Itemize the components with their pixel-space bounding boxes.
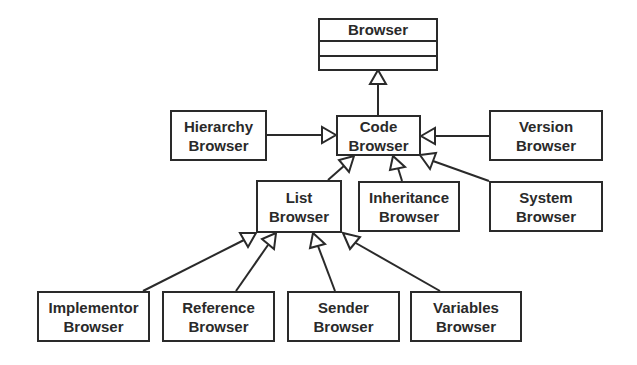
- edge-inheritance-to-code: [398, 168, 402, 181]
- generalization-arrowhead-icon: [390, 156, 405, 170]
- class-name-line2: Browser: [269, 207, 329, 226]
- class-name-line2: Browser: [516, 136, 576, 155]
- edge-variables-to-list: [354, 242, 440, 291]
- class-name-line2: Browser: [348, 136, 408, 155]
- class-variables-browser[interactable]: Variables Browser: [410, 291, 522, 342]
- class-name: Browser: [320, 20, 436, 40]
- generalization-arrowhead-icon: [310, 233, 325, 248]
- class-inheritance-browser[interactable]: Inheritance Browser: [358, 181, 460, 232]
- class-code-browser[interactable]: Code Browser: [336, 115, 421, 156]
- generalization-arrowhead-icon: [420, 153, 436, 169]
- generalization-arrowhead-icon: [262, 233, 276, 249]
- edge-implementor-to-list: [143, 240, 244, 291]
- class-name-line1: Implementor: [48, 298, 138, 317]
- class-sender-browser[interactable]: Sender Browser: [287, 291, 400, 342]
- class-name-line1: Code: [360, 117, 398, 136]
- class-name-line2: Browser: [63, 317, 123, 336]
- generalization-arrowhead-icon: [322, 127, 336, 143]
- class-name-line2: Browser: [188, 317, 248, 336]
- generalization-arrowhead-icon: [370, 70, 386, 84]
- class-name-line2: Browser: [436, 317, 496, 336]
- class-implementor-browser[interactable]: Implementor Browser: [37, 291, 150, 342]
- class-name-line2: Browser: [313, 317, 373, 336]
- class-name-line1: System: [519, 188, 572, 207]
- class-browser[interactable]: Browser: [318, 18, 438, 71]
- class-name-line1: Version: [519, 117, 573, 136]
- class-name-line1: Reference: [182, 298, 255, 317]
- class-name-line2: Browser: [188, 136, 248, 155]
- class-hierarchy-browser[interactable]: Hierarchy Browser: [170, 110, 267, 161]
- class-name-line1: Variables: [433, 298, 499, 317]
- class-reference-browser[interactable]: Reference Browser: [162, 291, 275, 342]
- edge-sender-to-list: [318, 246, 335, 291]
- class-name-line1: Hierarchy: [184, 117, 253, 136]
- generalization-arrowhead-icon: [343, 233, 360, 249]
- methods-compartment: [320, 55, 436, 70]
- edge-list-to-code: [328, 165, 345, 180]
- class-name-line2: Browser: [379, 207, 439, 226]
- class-name-line1: Sender: [318, 298, 369, 317]
- class-system-browser[interactable]: System Browser: [489, 181, 603, 232]
- class-name-line1: List: [286, 188, 313, 207]
- class-list-browser[interactable]: List Browser: [256, 180, 342, 233]
- edge-reference-to-list: [236, 245, 268, 291]
- class-name-line2: Browser: [516, 207, 576, 226]
- class-name-line1: Inheritance: [369, 188, 449, 207]
- generalization-arrowhead-icon: [421, 128, 435, 144]
- class-version-browser[interactable]: Version Browser: [489, 110, 603, 161]
- edge-system-to-code: [433, 161, 489, 181]
- attributes-compartment: [320, 40, 436, 55]
